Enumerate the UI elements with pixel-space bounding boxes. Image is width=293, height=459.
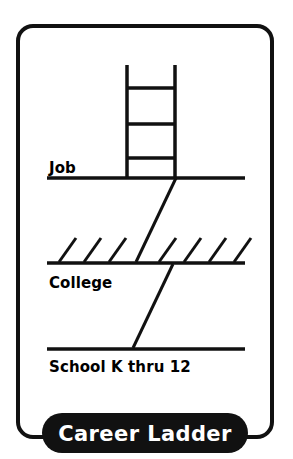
level-label-school: School K thru 12: [49, 358, 191, 376]
career-ladder-banner: Career Ladder: [42, 413, 248, 453]
banner-title: Career Ladder: [58, 422, 232, 446]
career-ladder-figure: Job College School K thru 12 Career Ladd…: [0, 0, 293, 459]
level-label-job: Job: [48, 159, 76, 177]
career-ladder-illustration: Job College School K thru 12 Career Ladd…: [0, 0, 293, 459]
level-label-college: College: [49, 274, 112, 292]
page-background: [0, 0, 293, 459]
